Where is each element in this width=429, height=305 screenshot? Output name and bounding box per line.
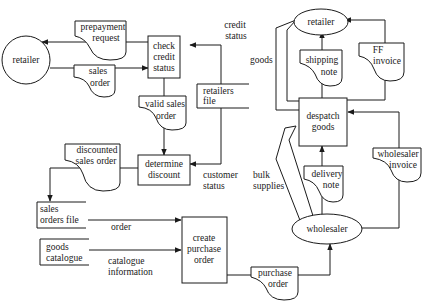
document-label-line: discounted — [76, 145, 117, 155]
document-shipping-note[interactable]: shipping note — [300, 50, 342, 86]
document-label-line: sales order — [76, 156, 118, 166]
document-label-line: wholesaler — [377, 149, 419, 159]
store-retailers-file[interactable]: retailers file — [197, 84, 249, 108]
flow-customer-status — [190, 108, 221, 164]
document-label-line: FF — [373, 45, 384, 55]
document-label-line: order — [268, 279, 289, 289]
document-label-line: note — [323, 180, 339, 190]
document-label-line: delivery — [311, 169, 342, 179]
document-valid-sales-order[interactable]: valid sales order — [139, 96, 186, 130]
document-label-line: invoice — [389, 160, 417, 170]
label-bulk-supplies-line: bulk — [253, 170, 270, 180]
document-label-line: note — [321, 67, 337, 77]
label-catalogue-information-line: information — [108, 267, 153, 277]
document-label-line: request — [92, 33, 120, 43]
document-label-line: invoice — [373, 56, 401, 66]
process-label-line: despatch — [306, 111, 339, 121]
flow-credit-status — [190, 45, 221, 84]
document-sales-order[interactable]: sales order — [74, 65, 115, 97]
process-label-line: goods — [312, 122, 335, 132]
process-label-line: determine — [145, 159, 183, 169]
store-label-line: orders file — [40, 215, 79, 225]
label-goods: goods — [250, 55, 273, 65]
process-label-line: create — [193, 233, 216, 243]
process-despatch-goods[interactable]: despatch goods — [299, 98, 347, 146]
store-label-line: retailers — [203, 86, 234, 96]
label-credit-status-line: credit — [224, 20, 246, 30]
document-label-line: purchase — [258, 268, 292, 278]
document-label-line: order — [90, 78, 111, 88]
document-purchase-order[interactable]: purchase order — [251, 267, 298, 300]
document-label-line: sales — [89, 66, 108, 76]
store-label-line: catalogue — [46, 253, 82, 263]
data-flow-diagram: retailer retailer wholesaler check credi… — [0, 0, 429, 305]
entity-retailer-left-label: retailer — [13, 55, 41, 65]
store-goods-catalogue[interactable]: goods catalogue — [40, 239, 89, 265]
document-prepayment-request[interactable]: prepayment request — [75, 21, 126, 60]
document-wholesaler-invoice[interactable]: wholesaler invoice — [373, 148, 421, 182]
document-delivery-note[interactable]: delivery note — [304, 166, 343, 202]
document-label-line: valid sales — [145, 99, 185, 109]
process-label-line: status — [153, 63, 175, 73]
process-determine-discount[interactable]: determine discount — [138, 155, 190, 185]
entity-retailer-right-label: retailer — [308, 17, 336, 27]
store-sales-orders-file[interactable]: sales orders file — [37, 202, 86, 228]
process-label-line: purchase — [187, 244, 221, 254]
store-label-line: sales — [40, 204, 59, 214]
label-bulk-supplies-line: supplies — [253, 181, 284, 191]
process-label-line: order — [194, 255, 215, 265]
store-label-line: file — [203, 96, 216, 106]
store-label-line: goods — [46, 242, 69, 252]
process-label-line: credit — [153, 52, 175, 62]
label-order: order — [111, 222, 132, 232]
entity-retailer-right[interactable]: retailer — [294, 9, 348, 35]
label-credit-status-line: status — [225, 31, 247, 41]
flow-goods — [276, 20, 299, 110]
label-customer-status-line: status — [203, 181, 225, 191]
document-label-line: shipping — [306, 55, 339, 65]
label-customer-status-line: customer — [203, 170, 239, 180]
entity-wholesaler[interactable]: wholesaler — [292, 214, 362, 244]
process-label-line: check — [153, 41, 175, 51]
process-label-line: discount — [148, 170, 181, 180]
document-ff-invoice[interactable]: FF invoice — [359, 43, 404, 81]
entity-wholesaler-label: wholesaler — [306, 224, 348, 234]
process-check-credit-status[interactable]: check credit status — [148, 36, 180, 78]
label-catalogue-information-line: catalogue — [108, 256, 144, 266]
document-label-line: order — [156, 111, 177, 121]
document-label-line: prepayment — [81, 22, 126, 32]
process-create-purchase-order[interactable]: create purchase order — [182, 217, 227, 283]
entity-retailer-left[interactable]: retailer — [2, 36, 50, 84]
